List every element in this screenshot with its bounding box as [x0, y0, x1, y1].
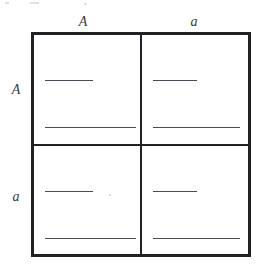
- phenotype-blank-line[interactable]: [153, 127, 240, 128]
- punnett-cell-Aa[interactable]: [141, 35, 248, 145]
- scan-speck: [109, 194, 111, 196]
- scan-artifact: [30, 2, 39, 4]
- genotype-blank-line[interactable]: [45, 80, 93, 81]
- punnett-cell-aA[interactable]: [34, 145, 141, 255]
- column-header-a: a: [183, 15, 205, 29]
- punnett-cell-AA[interactable]: [34, 35, 141, 145]
- phenotype-blank-line[interactable]: [45, 238, 136, 239]
- scan-artifact: [5, 2, 9, 4]
- punnett-cell-aa[interactable]: [141, 145, 248, 255]
- row-header-a: a: [4, 190, 28, 204]
- phenotype-blank-line[interactable]: [45, 127, 136, 128]
- column-header-A: A: [72, 15, 94, 29]
- punnett-square-figure: A a A a: [0, 0, 260, 266]
- genotype-blank-line[interactable]: [45, 191, 93, 192]
- genotype-blank-line[interactable]: [153, 191, 197, 192]
- punnett-grid: [31, 32, 251, 257]
- genotype-blank-line[interactable]: [153, 80, 197, 81]
- scan-artifact: [84, 3, 87, 5]
- phenotype-blank-line[interactable]: [153, 238, 240, 239]
- row-header-A: A: [4, 83, 28, 97]
